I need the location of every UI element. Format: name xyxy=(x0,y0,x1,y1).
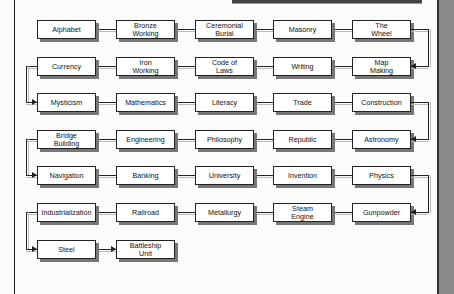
tech-box: Engineering xyxy=(116,130,175,149)
connector-shadow xyxy=(254,177,273,178)
wrap-connector xyxy=(26,212,27,250)
connector xyxy=(175,139,195,140)
wrap-connector-shadow xyxy=(411,31,428,32)
connector-shadow xyxy=(254,31,273,32)
tech-box: Physics xyxy=(352,166,411,185)
arrow-right-icon xyxy=(32,246,37,252)
tech-box: Navigation xyxy=(37,166,96,185)
wrap-connector-shadow xyxy=(430,102,431,140)
connector-shadow xyxy=(175,141,195,142)
arrow-left-icon xyxy=(411,63,416,69)
wrap-connector-shadow xyxy=(28,66,29,103)
top-bar xyxy=(232,0,422,4)
wrap-connector-shadow xyxy=(28,212,29,250)
connector xyxy=(175,102,195,103)
wrap-connector xyxy=(428,175,429,213)
wrap-connector xyxy=(26,66,27,103)
connector-shadow xyxy=(254,141,273,142)
tech-box: Banking xyxy=(116,166,175,185)
connector-shadow xyxy=(332,68,352,69)
tech-box: University xyxy=(195,166,254,185)
connector-shadow xyxy=(96,214,116,215)
connector xyxy=(332,29,352,30)
tech-box: Republic xyxy=(273,130,332,149)
wrap-connector-shadow xyxy=(28,139,29,176)
connector xyxy=(254,175,273,176)
wrap-connector-shadow xyxy=(430,175,431,213)
connector-shadow xyxy=(175,214,195,215)
connector xyxy=(254,66,273,67)
connector xyxy=(332,66,352,67)
connector xyxy=(332,102,352,103)
connector xyxy=(175,66,195,67)
connector-shadow xyxy=(332,31,352,32)
wrap-connector xyxy=(411,102,428,103)
tech-box: Masonry xyxy=(273,20,332,39)
page-border-left xyxy=(14,0,15,294)
connector-shadow xyxy=(332,214,352,215)
tech-box: Mathematics xyxy=(116,93,175,112)
connector-shadow xyxy=(96,31,116,32)
connector-shadow xyxy=(332,104,352,105)
wrap-connector xyxy=(428,29,429,67)
tech-box: Literacy xyxy=(195,93,254,112)
tech-box: Astronomy xyxy=(352,130,411,149)
arrow-left-icon xyxy=(411,136,416,142)
tech-box: Construction xyxy=(352,93,411,112)
tech-box: Trade xyxy=(273,93,332,112)
connector xyxy=(96,212,116,213)
connector xyxy=(96,175,116,176)
connector-shadow xyxy=(175,68,195,69)
tech-box: Mysticism xyxy=(37,93,96,112)
tech-box: Bronze Working xyxy=(116,20,175,39)
connector-shadow xyxy=(96,177,116,178)
connector xyxy=(254,102,273,103)
connector xyxy=(332,175,352,176)
connector-shadow xyxy=(332,141,352,142)
wrap-connector xyxy=(411,175,428,176)
connector-shadow xyxy=(96,68,116,69)
connector-shadow xyxy=(254,68,273,69)
arrow-right-icon xyxy=(111,246,116,252)
tech-box: Invention xyxy=(273,166,332,185)
tech-box: Writing xyxy=(273,57,332,76)
connector xyxy=(332,212,352,213)
connector-shadow xyxy=(175,104,195,105)
connector xyxy=(96,29,116,30)
tech-box: Battleship Unit xyxy=(116,240,175,259)
connector xyxy=(254,139,273,140)
connector-shadow xyxy=(96,104,116,105)
connector-shadow xyxy=(254,214,273,215)
wrap-connector xyxy=(411,29,428,30)
tech-box: Map Making xyxy=(352,57,411,76)
tech-box: Railroad xyxy=(116,203,175,222)
page-edge xyxy=(439,0,454,294)
tech-box: Alphabet xyxy=(37,20,96,39)
wrap-connector-shadow xyxy=(411,177,428,178)
tech-box: Iron Working xyxy=(116,57,175,76)
tech-box: Currency xyxy=(37,57,96,76)
tech-box: The Wheel xyxy=(352,20,411,39)
connector xyxy=(175,175,195,176)
wrap-connector-shadow xyxy=(430,29,431,67)
connector-shadow xyxy=(175,177,195,178)
tech-box: Steam Engine xyxy=(273,203,332,222)
connector xyxy=(96,139,116,140)
connector xyxy=(96,66,116,67)
connector xyxy=(254,29,273,30)
connector xyxy=(96,102,116,103)
connector-shadow xyxy=(96,141,116,142)
connector xyxy=(175,29,195,30)
tech-box: Ceremonial Burial xyxy=(195,20,254,39)
connector xyxy=(332,139,352,140)
arrow-right-icon xyxy=(32,99,37,105)
tech-box: Metallurgy xyxy=(195,203,254,222)
connector-shadow xyxy=(175,31,195,32)
connector-shadow xyxy=(332,177,352,178)
arrow-right-icon xyxy=(32,172,37,178)
tech-box: Steel xyxy=(37,240,96,259)
wrap-connector-shadow xyxy=(411,104,428,105)
tech-box: Industrialization xyxy=(37,203,96,222)
tech-box: Philosophy xyxy=(195,130,254,149)
connector-shadow xyxy=(254,104,273,105)
